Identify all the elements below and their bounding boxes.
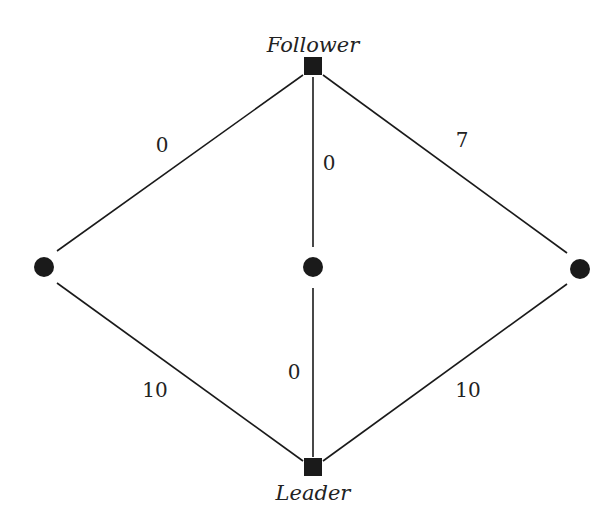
graph-diagram: Follower Leader 0 0 7 10 0 10 [0,0,615,527]
center-node [303,257,323,277]
left-node [34,257,54,277]
edge-follower-right [323,75,567,253]
right-node [570,259,590,279]
weight-follower-center: 0 [323,151,336,175]
weight-follower-left: 0 [156,133,169,157]
edge-leader-left [57,283,303,461]
weight-leader-right: 10 [455,378,480,402]
weight-leader-left: 10 [142,378,167,402]
weight-follower-right: 7 [456,128,469,152]
follower-node [304,57,322,75]
edge-leader-right [323,284,567,461]
follower-label: Follower [266,33,362,57]
leader-label: Leader [275,481,353,505]
edge-follower-left [57,75,303,251]
weight-leader-center: 0 [288,360,301,384]
leader-node [304,458,322,476]
